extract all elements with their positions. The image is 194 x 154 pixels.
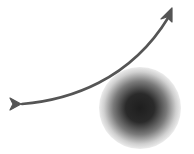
- planet-sphere: [99, 67, 181, 149]
- diagram-canvas: [0, 0, 194, 154]
- arrow-tail-chevron-icon: [10, 98, 21, 110]
